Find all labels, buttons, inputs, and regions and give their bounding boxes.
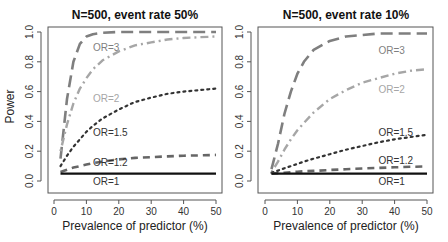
y-tick-label: 0.6	[234, 84, 245, 98]
x-tick-label: 20	[113, 206, 125, 217]
y-tick-label: 0.6	[24, 84, 35, 98]
y-axis-label: Power	[3, 89, 17, 123]
series-label: OR=3	[93, 42, 120, 53]
y-tick-label: 0.0	[24, 174, 35, 188]
y-tick-label: 0.2	[234, 144, 245, 158]
x-tick-label: 30	[357, 206, 369, 217]
x-tick-label: 0	[262, 206, 268, 217]
x-tick-label: 20	[324, 206, 336, 217]
x-tick-label: 10	[292, 206, 304, 217]
y-tick-label: 0.0	[234, 174, 245, 188]
x-tick-label: 0	[51, 206, 57, 217]
y-tick-label: 1.0	[24, 25, 35, 39]
series-label: OR=3	[378, 45, 405, 56]
x-tick-label: 40	[389, 206, 401, 217]
series-label: OR=1.5	[93, 127, 128, 138]
series-line-or-1-2	[61, 155, 217, 172]
series-label: OR=1.2	[93, 157, 128, 168]
chart-title: N=500, event rate 50%	[72, 8, 199, 22]
y-tick-label: 0.4	[24, 114, 35, 128]
series-line-or-2	[61, 37, 217, 152]
series-label: OR=1.2	[378, 155, 413, 166]
y-tick-label: 1.0	[234, 25, 245, 39]
x-tick-label: 50	[421, 206, 433, 217]
series-line-or-3	[61, 32, 217, 159]
y-tick-label: 0.8	[234, 54, 245, 68]
series-label: OR=2	[378, 84, 405, 95]
x-tick-label: 50	[210, 206, 222, 217]
series-label: OR=2	[93, 93, 120, 104]
series-label: OR=1	[378, 176, 405, 187]
x-tick-label: 10	[81, 206, 93, 217]
chart-figure: N=500, event rate 50%01020304050Prevalen…	[0, 0, 448, 242]
x-axis-label: Prevalence of predictor (%)	[62, 219, 207, 233]
x-tick-label: 40	[178, 206, 190, 217]
x-tick-label: 30	[146, 206, 158, 217]
x-axis-label: Prevalence of predictor (%)	[273, 219, 418, 233]
chart-title: N=500, event rate 10%	[283, 8, 410, 22]
y-tick-label: 0.8	[24, 54, 35, 68]
series-label: OR=1.5	[378, 127, 413, 138]
series-label: OR=1	[93, 176, 120, 187]
y-tick-label: 0.2	[24, 144, 35, 158]
y-tick-label: 0.4	[234, 114, 245, 128]
